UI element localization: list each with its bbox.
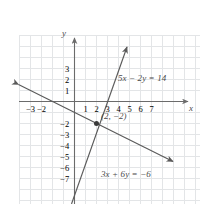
x-tick-5: 5 [127,104,131,114]
y-tick-labels: 3 2 1 −2 −3 −4 −5 −6 −7 [0,0,74,204]
y-tick--2: −2 [60,119,69,129]
y-tick-3: 3 [65,64,69,74]
intersection-point-marker [94,121,99,126]
y-tick--3: −3 [60,130,69,140]
y-tick--5: −5 [60,152,69,162]
x-tick-1: 1 [83,104,87,114]
y-tick-2: 2 [65,75,69,85]
x-tick-2: 2 [94,104,98,114]
x-tick-7: 7 [149,104,153,114]
graph-figure: y x −3 −2 1 2 3 4 5 6 7 3 2 1 −2 −3 −4 −… [0,0,200,204]
y-tick--4: −4 [60,141,69,151]
x-tick-6: 6 [138,104,142,114]
y-tick--7: −7 [60,174,69,184]
equation-label-line1: 5x − 2y = 14 [118,74,166,83]
y-tick--6: −6 [60,163,69,173]
intersection-point-label: (2, −2) [101,112,127,121]
y-tick-1: 1 [65,86,69,96]
equation-label-line2: 3x + 6y = −6 [101,170,151,179]
